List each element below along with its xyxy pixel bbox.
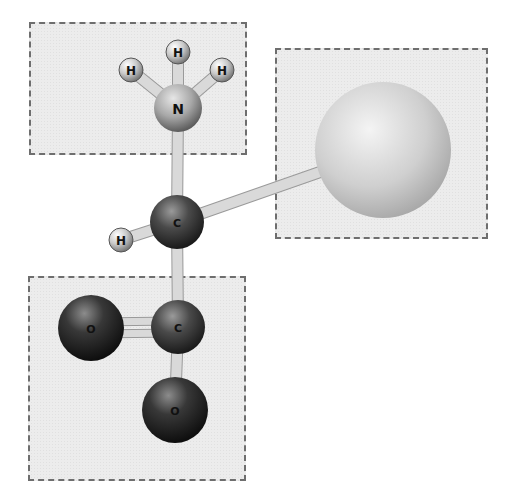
molecule-model: HHHNCHCOO [0, 0, 507, 498]
atom-c-alpha: C [150, 195, 204, 249]
atom-o1: O [58, 295, 124, 361]
atom-o2: O [142, 377, 208, 443]
atom-h1: H [119, 58, 143, 82]
atom-h2: H [166, 40, 190, 64]
atom-label-n: N [172, 101, 184, 117]
atom-label-h2: H [173, 46, 183, 60]
atom-label-o1: O [86, 323, 95, 336]
atoms: HHHNCHCOO [58, 40, 451, 443]
atom-label-o2: O [170, 405, 179, 418]
atom-h-alpha: H [109, 228, 133, 252]
atom-label-h3: H [217, 64, 227, 78]
atom-n: N [154, 84, 202, 132]
atom-label-c-carboxyl: C [174, 322, 182, 335]
amino-acid-diagram: HHHNCHCOO [0, 0, 507, 498]
atom-label-h-alpha: H [116, 234, 126, 248]
atom-label-h1: H [126, 64, 136, 78]
atom-h3: H [210, 58, 234, 82]
r-group-sphere [315, 82, 451, 218]
atom-label-c-alpha: C [173, 217, 181, 230]
atom-c-carboxyl: C [151, 300, 205, 354]
atom-r [315, 82, 451, 218]
